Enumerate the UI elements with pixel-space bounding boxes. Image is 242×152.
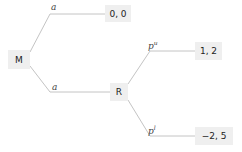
payoff-box-bottom: −2, 5: [195, 127, 233, 145]
edge-r-to-bottom-payoff: [128, 100, 195, 136]
payoff-box-mid: 1, 2: [195, 42, 222, 60]
node-label: M: [15, 55, 23, 65]
payoff-value: 0, 0: [109, 9, 126, 19]
edge-label-a-top: a: [51, 3, 56, 12]
node-label: R: [116, 87, 122, 97]
edge-m-to-top-payoff: [30, 14, 105, 52]
edge-label-superscript: l: [154, 124, 156, 131]
decision-node-m: M: [8, 50, 30, 69]
payoff-box-top: 0, 0: [105, 5, 131, 22]
payoff-value: 1, 2: [200, 46, 217, 56]
payoff-value: −2, 5: [202, 131, 227, 141]
edge-label-p-lower: pl: [148, 125, 156, 136]
decision-node-r: R: [110, 83, 128, 101]
edge-m-to-r: [30, 66, 110, 92]
edge-label-text: a: [52, 82, 57, 92]
edge-label-text: a: [51, 2, 56, 12]
edge-label-p-upper: pu: [148, 40, 158, 51]
edge-r-to-mid-payoff: [128, 51, 195, 84]
edge-label-a-bottom: a: [52, 83, 57, 92]
edge-label-superscript: u: [154, 39, 158, 46]
